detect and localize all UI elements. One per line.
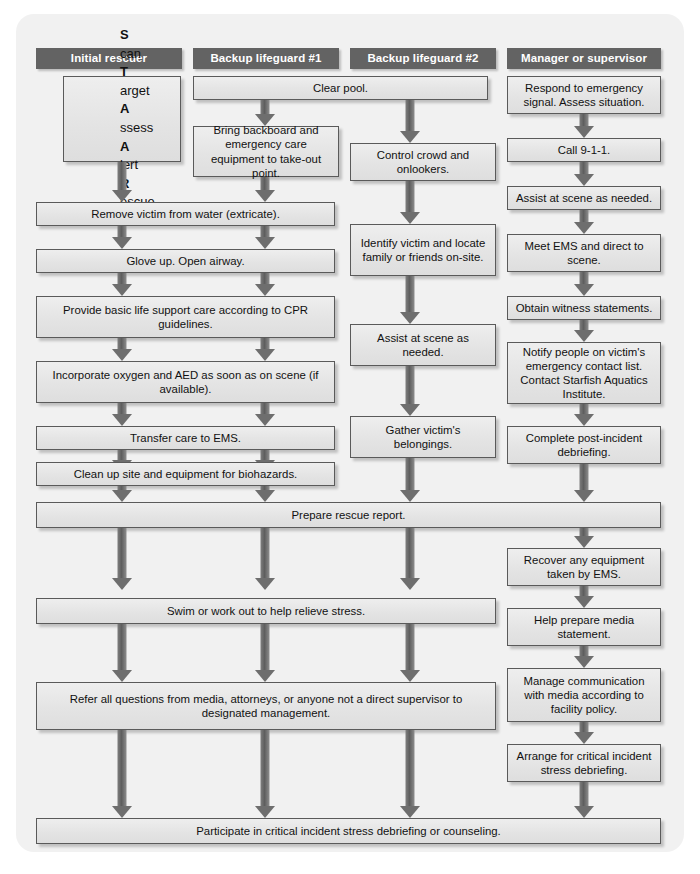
- acronym-initial: T: [120, 64, 128, 79]
- step-text: Bring backboard and emergency care equip…: [198, 123, 334, 180]
- arrow-down-icon: [110, 730, 134, 818]
- step-box-col4-4: Obtain witness statements.: [507, 296, 661, 320]
- step-box-col1-1: Glove up. Open airway.: [36, 249, 335, 273]
- shared-step-participate-debriefing: Participate in critical incident stress …: [36, 818, 661, 844]
- step-text: Call 9-1-1.: [512, 143, 656, 157]
- arrow-down-icon: [110, 338, 134, 361]
- arrow-down-icon: [572, 782, 596, 818]
- arrow-down-icon: [572, 162, 596, 186]
- arrow-down-icon: [110, 403, 134, 426]
- shared-step-swim-or-work-out: Swim or work out to help relieve stress.: [36, 598, 496, 624]
- column-header-backup-lifeguard-1: Backup lifeguard #1: [193, 48, 339, 69]
- step-text: Prepare rescue report.: [41, 508, 656, 522]
- column-header-backup-lifeguard-2: Backup lifeguard #2: [350, 48, 496, 69]
- arrow-down-icon: [398, 100, 422, 143]
- arrow-down-icon: [572, 528, 596, 548]
- step-box-col1-3: Incorporate oxygen and AED as soon as on…: [36, 361, 335, 403]
- arrow-down-icon: [572, 404, 596, 426]
- step-box-col4-3: Meet EMS and direct to scene.: [507, 234, 661, 272]
- step-text: Remove victim from water (extricate).: [41, 207, 330, 221]
- arrow-down-icon: [253, 486, 277, 502]
- arrow-down-icon: [572, 646, 596, 668]
- arrow-down-icon: [398, 730, 422, 818]
- step-box-col4-10: Arrange for critical incident stress deb…: [507, 744, 661, 782]
- arrow-down-icon: [398, 276, 422, 324]
- step-box-col4-2: Assist at scene as needed.: [507, 186, 661, 210]
- step-text: Clear pool.: [198, 81, 483, 95]
- step-text: Complete post-incident debriefing.: [512, 431, 656, 459]
- step-text: Glove up. Open airway.: [41, 254, 330, 268]
- step-box-col1-4: Transfer care to EMS.: [36, 426, 335, 450]
- acronym-initial: S: [120, 27, 129, 42]
- arrow-down-icon: [572, 586, 596, 608]
- arrow-down-icon: [253, 403, 277, 426]
- arrow-down-icon: [253, 177, 277, 202]
- arrow-down-icon: [110, 162, 134, 202]
- flowchart-diagram: Initial rescuer Backup lifeguard #1 Back…: [0, 0, 700, 874]
- arrow-down-icon: [253, 273, 277, 296]
- step-box-col4-6: Complete post-incident debriefing.: [507, 426, 661, 464]
- arrow-down-icon: [398, 181, 422, 224]
- arrow-down-icon: [572, 272, 596, 296]
- arrow-down-icon: [110, 226, 134, 249]
- acronym-initial: A: [120, 139, 129, 154]
- step-box-col2-0: Clear pool.: [193, 76, 488, 100]
- step-text: Manage communication with media accordin…: [512, 674, 656, 717]
- acronym-box-staar: Scan Target Assess Alert Rescue: [63, 76, 181, 162]
- step-box-col3-0: Control crowd and onlookers.: [350, 143, 496, 181]
- arrow-down-icon: [572, 114, 596, 138]
- step-text: Control crowd and onlookers.: [355, 148, 491, 176]
- step-box-col1-2: Provide basic life support care accordin…: [36, 296, 335, 338]
- step-box-col4-7: Recover any equipment taken by EMS.: [507, 548, 661, 586]
- arrow-down-icon: [572, 464, 596, 502]
- step-text: Gather victim's belongings.: [355, 423, 491, 451]
- acronym-rest: arget: [120, 82, 176, 101]
- step-text: Clean up site and equipment for biohazar…: [41, 467, 330, 481]
- acronym-rest: can: [120, 45, 176, 64]
- acronym-line: Scan: [120, 26, 176, 63]
- step-box-col4-9: Manage communication with media accordin…: [507, 668, 661, 722]
- arrow-down-icon: [398, 366, 422, 416]
- step-box-col1-0: Remove victim from water (extricate).: [36, 202, 335, 226]
- arrow-down-icon: [253, 730, 277, 818]
- arrow-down-icon: [398, 624, 422, 682]
- arrow-down-icon: [572, 320, 596, 342]
- step-text: Meet EMS and direct to scene.: [512, 239, 656, 267]
- step-box-col4-8: Help prepare media statement.: [507, 608, 661, 646]
- step-text: Obtain witness statements.: [512, 301, 656, 315]
- step-box-col1-5: Clean up site and equipment for biohazar…: [36, 462, 335, 486]
- step-text: Transfer care to EMS.: [41, 431, 330, 445]
- step-text: Participate in critical incident stress …: [41, 824, 656, 838]
- arrow-down-icon: [110, 528, 134, 590]
- step-box-col4-5: Notify people on victim's emergency cont…: [507, 342, 661, 404]
- acronym-line: Target: [120, 63, 176, 100]
- step-box-col4-0: Respond to emergency signal. Assess situ…: [507, 76, 661, 114]
- step-text: Swim or work out to help relieve stress.: [41, 604, 491, 618]
- step-text: Assist at scene as needed.: [512, 191, 656, 205]
- acronym-initial: A: [120, 101, 129, 116]
- step-text: Recover any equipment taken by EMS.: [512, 553, 656, 581]
- arrow-down-icon: [253, 100, 277, 126]
- step-text: Help prepare media statement.: [512, 613, 656, 641]
- shared-step-refer-all-questions: Refer all questions from media, attorney…: [36, 682, 496, 730]
- step-box-col3-1: Identify victim and locate family or fri…: [350, 224, 496, 276]
- step-box-col3-3: Gather victim's belongings.: [350, 416, 496, 458]
- step-text: Arrange for critical incident stress deb…: [512, 749, 656, 777]
- arrow-down-icon: [110, 624, 134, 682]
- column-header-manager: Manager or supervisor: [507, 48, 661, 69]
- shared-step-prepare-rescue-report: Prepare rescue report.: [36, 502, 661, 528]
- step-box-col4-1: Call 9-1-1.: [507, 138, 661, 162]
- arrow-down-icon: [572, 210, 596, 234]
- step-text: Refer all questions from media, attorney…: [41, 692, 491, 720]
- step-text: Provide basic life support care accordin…: [41, 303, 330, 331]
- step-text: Respond to emergency signal. Assess situ…: [512, 81, 656, 109]
- step-text: Notify people on victim's emergency cont…: [512, 345, 656, 402]
- step-box-col3-2: Assist at scene as needed.: [350, 324, 496, 366]
- arrow-down-icon: [253, 226, 277, 249]
- arrow-down-icon: [253, 338, 277, 361]
- acronym-rest: ssess: [120, 119, 176, 138]
- acronym-line: Assess: [120, 100, 176, 137]
- step-box-col2-1: Bring backboard and emergency care equip…: [193, 126, 339, 177]
- step-text: Assist at scene as needed.: [355, 331, 491, 359]
- step-text: Incorporate oxygen and AED as soon as on…: [41, 368, 330, 396]
